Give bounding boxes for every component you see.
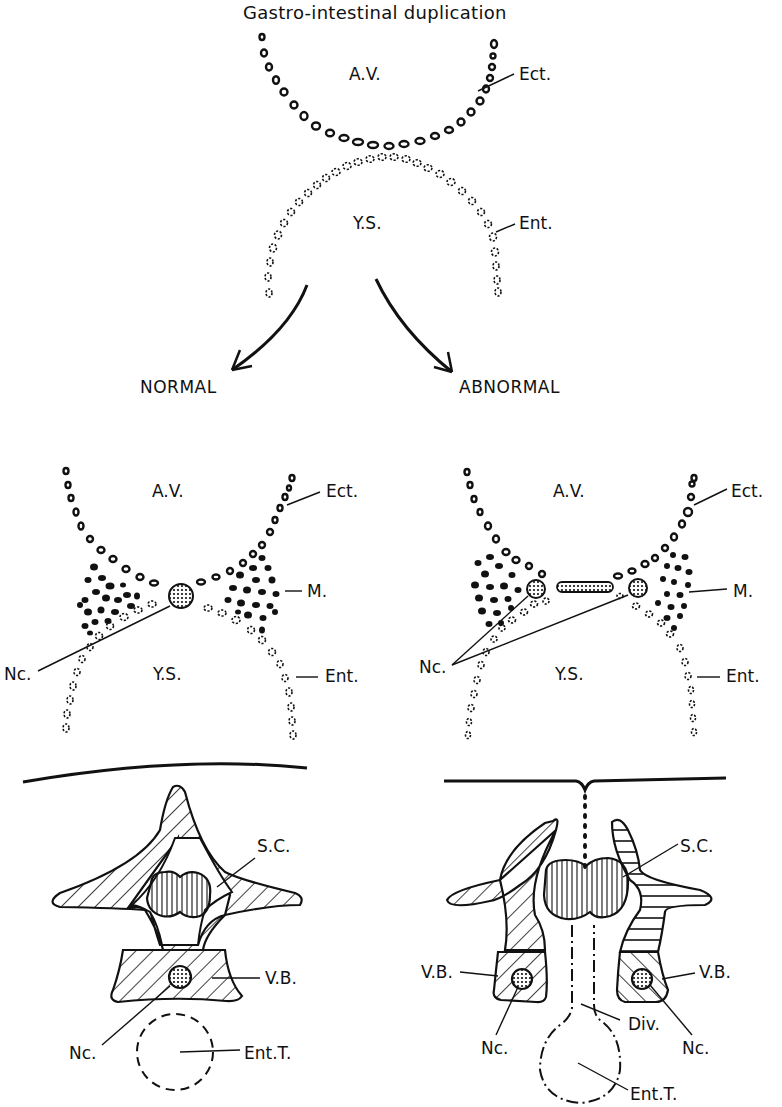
neurenteric-tract <box>583 794 587 869</box>
label-amniotic-cavity: A.V. <box>152 481 184 501</box>
label-yolk-sac: Y.S. <box>554 664 584 684</box>
label-amniotic-cavity: A.V. <box>553 481 585 501</box>
leader-notochord <box>38 606 170 671</box>
label-ectoderm: Ect. <box>731 481 763 501</box>
mesoderm-cluster-right <box>655 552 693 631</box>
leader-enteric-tube <box>180 1050 240 1052</box>
notochord-right <box>632 969 652 989</box>
gastro-intestinal-duplication-figure: Gastro-intestinal duplication <box>0 0 782 1107</box>
label-yolk-sac: Y.S. <box>352 213 382 233</box>
leader-diverticulum <box>581 1004 620 1020</box>
label-notochord: Nc. <box>419 657 446 677</box>
top-embryo-panel: A.V. Ect. Y.S. Ent. <box>260 34 553 297</box>
leader-ectoderm <box>287 492 320 505</box>
leader-vertebral-body-left <box>460 972 498 976</box>
spinal-cord <box>147 872 210 918</box>
arrow-right-icon <box>376 279 452 372</box>
leader-ectoderm <box>478 74 514 91</box>
label-enteric-tube: Ent.T. <box>244 1043 291 1063</box>
split-notochord-bridge <box>557 582 613 592</box>
ectoderm-layer <box>260 34 498 149</box>
label-vertebral-body-right: V.B. <box>699 962 731 982</box>
skin-surface-line <box>444 778 726 790</box>
leader-notochord-left <box>452 596 528 665</box>
skin-surface-line <box>23 764 307 782</box>
notochord-left <box>527 580 545 598</box>
branch-arrows: NORMAL ABNORMAL <box>140 279 560 397</box>
figure-title: Gastro-intestinal duplication <box>243 2 507 23</box>
label-notochord: Nc. <box>69 1043 96 1063</box>
notochord-left <box>512 969 532 989</box>
label-entoderm: Ent. <box>519 213 553 233</box>
label-vertebral-body-left: V.B. <box>421 962 453 982</box>
label-notochord-left: Nc. <box>481 1038 508 1058</box>
label-normal: NORMAL <box>140 377 217 397</box>
label-entoderm: Ent. <box>726 666 760 686</box>
normal-embryo-panel: A.V. Ect. M. Nc. Y.S. Ent. <box>4 468 359 739</box>
label-vertebral-body: V.B. <box>265 968 297 988</box>
label-entoderm: Ent. <box>325 666 359 686</box>
abnormal-vertebra-panel: S.C. V.B. V.B. Div. Nc. Nc. Ent.T. <box>421 778 731 1104</box>
notochord <box>169 966 191 988</box>
label-spinal-cord: S.C. <box>257 836 290 856</box>
mesoderm-cluster-left <box>471 554 522 627</box>
label-mesoderm: M. <box>307 581 327 601</box>
enteric-tube <box>137 1014 213 1090</box>
label-mesoderm: M. <box>733 581 753 601</box>
label-diverticulum: Div. <box>628 1014 660 1034</box>
leader-mesoderm <box>689 589 727 592</box>
diverticulum-and-enteric-tube <box>540 925 620 1103</box>
notochord <box>169 584 193 608</box>
abnormal-embryo-panel: A.V. Ect. M. Nc. Y.S. Ent. <box>419 469 763 739</box>
label-yolk-sac: Y.S. <box>152 664 182 684</box>
normal-vertebra-panel: S.C. V.B. Nc. Ent.T. <box>23 764 307 1090</box>
label-abnormal: ABNORMAL <box>459 377 560 397</box>
leader-entoderm <box>496 224 515 232</box>
label-ectoderm: Ect. <box>519 64 551 84</box>
label-spinal-cord: S.C. <box>680 836 713 856</box>
leader-vertebral-body-right <box>662 973 695 979</box>
spinal-cord <box>544 858 628 919</box>
label-ectoderm: Ect. <box>326 481 358 501</box>
label-amniotic-cavity: A.V. <box>349 64 381 84</box>
label-notochord: Nc. <box>4 664 31 684</box>
notochord-right <box>629 579 647 597</box>
leader-ectoderm <box>694 489 727 505</box>
label-notochord-right: Nc. <box>682 1038 709 1058</box>
neural-arch-left <box>447 819 557 950</box>
label-enteric-tube: Ent.T. <box>630 1084 677 1104</box>
entoderm-layer <box>265 154 501 297</box>
leader-notochord-right <box>452 595 628 665</box>
